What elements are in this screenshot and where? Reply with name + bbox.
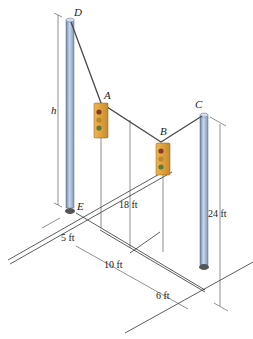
pole-right bbox=[199, 113, 209, 270]
label-6ft: 6 ft bbox=[156, 290, 170, 301]
label-B: B bbox=[160, 125, 167, 137]
ground-lines bbox=[8, 168, 253, 333]
label-A: A bbox=[103, 89, 111, 101]
label-24ft: 24 ft bbox=[208, 208, 227, 219]
label-5ft: 5 ft bbox=[61, 232, 75, 243]
dimension-10ft: 10 ft bbox=[76, 246, 140, 282]
dimension-6ft: 6 ft bbox=[140, 282, 188, 309]
label-E: E bbox=[76, 200, 84, 212]
dimension-24ft: 24 ft bbox=[208, 117, 228, 311]
pole-base-E bbox=[65, 208, 75, 214]
traffic-light-B bbox=[156, 143, 170, 175]
dimension-h: h bbox=[51, 13, 62, 207]
label-h: h bbox=[51, 104, 57, 116]
traffic-light-A bbox=[94, 103, 108, 138]
cable bbox=[71, 22, 202, 142]
traffic-light-cable-diagram: h 18 ft 24 ft 5 ft 10 ft 6 ft D A B C E bbox=[0, 0, 253, 339]
pole-left bbox=[65, 18, 75, 214]
label-18ft: 18 ft bbox=[119, 199, 138, 210]
pole-base-C bbox=[199, 264, 209, 270]
label-C: C bbox=[195, 98, 203, 110]
label-D: D bbox=[73, 6, 82, 18]
label-10ft: 10 ft bbox=[104, 259, 123, 270]
dimension-5ft: 5 ft bbox=[42, 218, 75, 243]
dimension-18ft: 18 ft bbox=[119, 120, 138, 248]
